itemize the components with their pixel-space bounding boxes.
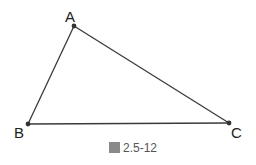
edge-ca bbox=[74, 26, 229, 123]
vertex-b-point bbox=[26, 122, 31, 127]
figure-glyph-icon bbox=[109, 142, 120, 153]
figure-number: 2.5-12 bbox=[123, 141, 157, 155]
edge-ab bbox=[28, 26, 74, 124]
edge-bc bbox=[28, 123, 229, 124]
vertex-a-label: A bbox=[65, 8, 75, 25]
triangle-diagram: A B C 2.5-12 bbox=[0, 0, 256, 165]
vertex-b-label: B bbox=[14, 124, 24, 141]
vertex-c-label: C bbox=[231, 124, 242, 141]
figure-caption: 2.5-12 bbox=[109, 141, 157, 155]
